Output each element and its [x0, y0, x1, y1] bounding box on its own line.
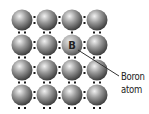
electron-dot [18, 57, 20, 59]
electron-dot [34, 16, 36, 18]
electron-dot [84, 91, 86, 93]
electron-dot [59, 47, 61, 49]
electron-dot [49, 82, 51, 84]
electron-dot [49, 57, 51, 59]
electron-dot [84, 66, 86, 68]
electron-dot [68, 57, 70, 59]
electron-dot [43, 82, 45, 84]
silicon-atom [37, 35, 58, 56]
electron-dot [24, 32, 26, 34]
electron-dot [84, 16, 86, 18]
electron-dot [84, 22, 86, 24]
silicon-atom [62, 85, 83, 106]
electron-dot [68, 82, 70, 84]
electron-dot [24, 57, 26, 59]
electron-dot [84, 41, 86, 43]
lattice-graphic: B [0, 0, 149, 114]
electron-dot [59, 72, 61, 74]
silicon-atom [12, 10, 33, 31]
silicon-atom [62, 60, 83, 81]
electron-dot [24, 107, 26, 109]
electron-dot [74, 57, 76, 59]
silicon-atom [37, 85, 58, 106]
hole-single-electron [71, 32, 73, 34]
electron-dot [99, 82, 101, 84]
silicon-atom [62, 10, 83, 31]
electron-dot [34, 72, 36, 74]
electron-dot [93, 82, 95, 84]
electron-dot [93, 32, 95, 34]
silicon-atom [87, 85, 108, 106]
silicon-atom [37, 10, 58, 31]
electron-dot [59, 66, 61, 68]
electron-dot [93, 107, 95, 109]
silicon-atom [87, 35, 108, 56]
electron-dot [49, 32, 51, 34]
silicon-atom [12, 60, 33, 81]
electron-dot [99, 32, 101, 34]
electron-dot [43, 32, 45, 34]
electron-dot [68, 107, 70, 109]
boron-atom-label-line2: atom [121, 84, 142, 95]
electron-dot [93, 57, 95, 59]
silicon-atom [37, 60, 58, 81]
electron-dot [74, 107, 76, 109]
electron-dot [18, 82, 20, 84]
electron-dot [34, 97, 36, 99]
silicon-atom [87, 60, 108, 81]
silicon-atom [12, 35, 33, 56]
electron-dot [18, 107, 20, 109]
boron-doped-lattice-diagram: B Boron atom [0, 0, 149, 114]
electron-dot [59, 91, 61, 93]
electron-dot [34, 22, 36, 24]
boron-symbol: B [68, 40, 76, 51]
electron-dot [59, 97, 61, 99]
silicon-atom [12, 85, 33, 106]
electron-dot [84, 97, 86, 99]
electron-dot [59, 16, 61, 18]
electron-dot [59, 41, 61, 43]
electron-dot [43, 107, 45, 109]
electron-dot [24, 82, 26, 84]
electron-dot [84, 47, 86, 49]
electron-dot [34, 91, 36, 93]
electron-dot [84, 72, 86, 74]
electron-dot [34, 66, 36, 68]
electron-dot [59, 22, 61, 24]
electron-dot [34, 41, 36, 43]
electron-dot [99, 57, 101, 59]
electron-dot [99, 107, 101, 109]
electron-dot [43, 57, 45, 59]
silicon-atom [87, 10, 108, 31]
electron-dot [34, 47, 36, 49]
boron-atom-label-line1: Boron [121, 71, 145, 82]
electron-dot [49, 107, 51, 109]
electron-dot [74, 82, 76, 84]
electron-dot [18, 32, 20, 34]
